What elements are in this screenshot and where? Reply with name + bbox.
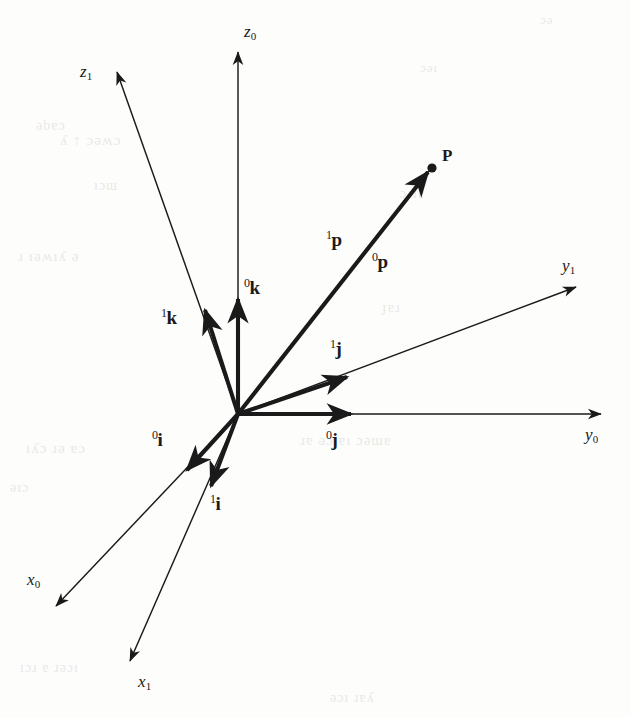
axis-line-x1: [130, 414, 238, 661]
axis-label-x1: x1: [138, 672, 151, 692]
figure-canvas: ɔǝǝbɐɔʎ ↑ ɔǝʍɔıɔɯɹ ıǝʍıʎ ǝɔıɹɐɟɐɹıʎɔ ɹǝ …: [0, 0, 631, 718]
unit-vector-label-1k: 1k: [161, 306, 177, 329]
unit-vector-1i: [211, 414, 238, 486]
position-vector-label-0p: 0p: [372, 250, 388, 273]
point-marker-group: [427, 163, 436, 172]
axis-label-y1: y1: [562, 256, 575, 276]
axis-label-y0: y0: [585, 425, 598, 445]
unit-vector-label-1i: 1i: [210, 492, 221, 515]
point-P-dot: [427, 163, 436, 172]
axis-label-z0: z0: [244, 22, 256, 42]
unit-vector-group: [187, 299, 351, 486]
unit-vector-label-0k: 0k: [244, 276, 260, 299]
axis-label-x0: x0: [27, 570, 40, 590]
unit-vector-label-0i: 0i: [152, 428, 163, 451]
position-vector-label-1p: 1p: [326, 228, 342, 251]
axis-label-z1: z1: [80, 62, 92, 82]
unit-vector-0i: [187, 414, 238, 470]
axis-line-group: [56, 52, 601, 661]
unit-vector-1k: [205, 310, 238, 414]
unit-vector-label-0j: 0j: [326, 428, 338, 451]
vector-diagram: [0, 0, 631, 718]
point-P-label: P: [442, 146, 452, 166]
unit-vector-label-1j: 1j: [330, 337, 342, 360]
